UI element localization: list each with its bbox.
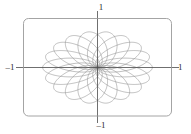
y-axis-tick-label-negative-one: –1 [94,120,108,130]
figure-screenshot: 1 –1 –1 1 [0,0,191,134]
rose-plot-svg [0,0,191,134]
x-axis-tick-label-positive-one: 1 [178,62,189,72]
y-axis-tick-label-positive-one: 1 [94,2,108,12]
x-axis-tick-label-negative-one: –1 [2,62,18,72]
